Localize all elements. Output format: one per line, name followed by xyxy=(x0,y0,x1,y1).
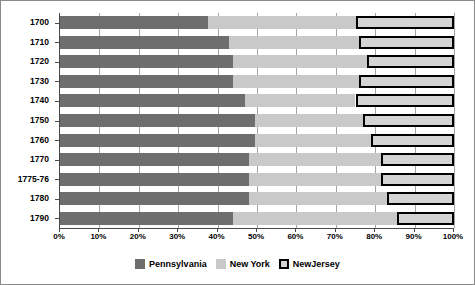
y-axis-tick-1775-76 xyxy=(55,179,59,180)
bar-segment-new-york-1730[interactable] xyxy=(233,75,359,88)
x-axis-tick-50% xyxy=(256,229,257,232)
new-york-swatch xyxy=(216,259,226,269)
legend-label: Pennsylvania xyxy=(149,259,207,269)
y-axis-label-1775-76: 1775-76 xyxy=(18,173,49,186)
bar-segment-newjersey-1730[interactable] xyxy=(359,75,454,88)
bar-row[interactable] xyxy=(60,212,454,225)
bar-segment-new-york-1700[interactable] xyxy=(208,16,356,29)
y-axis-tick-1770 xyxy=(55,160,59,161)
bar-segment-newjersey-1790[interactable] xyxy=(397,212,454,225)
bar-segment-new-york-1710[interactable] xyxy=(229,36,359,49)
y-axis-label-1710: 1710 xyxy=(30,36,49,49)
y-axis-label-1700: 1700 xyxy=(30,16,49,29)
bar-segment-new-york-1720[interactable] xyxy=(233,55,367,68)
bar-segment-newjersey-1750[interactable] xyxy=(363,114,454,127)
x-axis-tick-30% xyxy=(177,229,178,232)
pennsylvania-swatch xyxy=(135,259,145,269)
bar-segment-pennsylvania-1720[interactable] xyxy=(60,55,233,68)
y-axis-tick-1780 xyxy=(55,199,59,200)
y-axis-label-1730: 1730 xyxy=(30,75,49,88)
bar-segment-pennsylvania-1790[interactable] xyxy=(60,212,233,225)
x-axis-tick-20% xyxy=(138,229,139,232)
bar-segment-new-york-1790[interactable] xyxy=(233,212,397,225)
x-axis-tick-60% xyxy=(295,229,296,232)
x-axis-label-20%: 20% xyxy=(130,232,146,241)
bar-row[interactable] xyxy=(60,94,454,107)
bar-segment-pennsylvania-1750[interactable] xyxy=(60,114,255,127)
y-axis-tick-1700 xyxy=(55,23,59,24)
x-axis-label-30%: 30% xyxy=(169,232,185,241)
y-axis-label-1750: 1750 xyxy=(30,114,49,127)
y-axis-label-1760: 1760 xyxy=(30,134,49,147)
bar-segment-pennsylvania-1775-76[interactable] xyxy=(60,173,249,186)
bar-segment-pennsylvania-1780[interactable] xyxy=(60,192,249,205)
x-axis-tick-0% xyxy=(59,229,60,232)
bar-row[interactable] xyxy=(60,55,454,68)
bar-segment-new-york-1750[interactable] xyxy=(255,114,363,127)
legend-item-pennsylvania[interactable]: Pennsylvania xyxy=(135,259,207,269)
y-axis-tick-1790 xyxy=(55,218,59,219)
y-axis: 170017101720173017401750176017701775-761… xyxy=(1,13,55,228)
bar-segment-newjersey-1710[interactable] xyxy=(359,36,454,49)
x-axis-label-0%: 0% xyxy=(53,232,65,241)
bar-segment-pennsylvania-1710[interactable] xyxy=(60,36,229,49)
bar-segment-newjersey-1720[interactable] xyxy=(367,55,454,68)
bar-segment-new-york-1775-76[interactable] xyxy=(249,173,381,186)
bar-row[interactable] xyxy=(60,134,454,147)
bar-segment-pennsylvania-1740[interactable] xyxy=(60,94,245,107)
legend-label: New York xyxy=(230,259,270,269)
x-axis-tick-10% xyxy=(98,229,99,232)
bar-segment-new-york-1740[interactable] xyxy=(245,94,355,107)
x-axis-label-70%: 70% xyxy=(327,232,343,241)
y-axis-tick-1740 xyxy=(55,101,59,102)
x-axis-label-50%: 50% xyxy=(248,232,264,241)
bar-segment-pennsylvania-1760[interactable] xyxy=(60,134,255,147)
bar-segment-newjersey-1780[interactable] xyxy=(387,192,454,205)
bar-row[interactable] xyxy=(60,36,454,49)
legend-item-new-york[interactable]: New York xyxy=(216,259,270,269)
bar-row[interactable] xyxy=(60,75,454,88)
y-axis-tick-1710 xyxy=(55,42,59,43)
x-axis-tick-90% xyxy=(414,229,415,232)
x-axis-tick-70% xyxy=(335,229,336,232)
legend-label: NewJersey xyxy=(293,259,340,269)
bar-segment-new-york-1770[interactable] xyxy=(249,153,381,166)
bar-segment-newjersey-1740[interactable] xyxy=(356,94,455,107)
y-axis-label-1720: 1720 xyxy=(30,55,49,68)
newjersey-swatch xyxy=(279,259,289,269)
gridline-100% xyxy=(454,13,455,228)
bar-segment-newjersey-1775-76[interactable] xyxy=(381,173,454,186)
x-axis-label-80%: 80% xyxy=(366,232,382,241)
y-axis-tick-1750 xyxy=(55,121,59,122)
bar-segment-pennsylvania-1770[interactable] xyxy=(60,153,249,166)
bar-segment-pennsylvania-1730[interactable] xyxy=(60,75,233,88)
x-axis-label-10%: 10% xyxy=(90,232,106,241)
bar-segment-newjersey-1700[interactable] xyxy=(356,16,455,29)
y-axis-label-1780: 1780 xyxy=(30,192,49,205)
x-axis-tick-100% xyxy=(453,229,454,232)
y-axis-label-1770: 1770 xyxy=(30,153,49,166)
bar-row[interactable] xyxy=(60,114,454,127)
x-axis: 0%10%20%30%40%50%60%70%80%90%100% xyxy=(59,232,453,246)
x-axis-label-100%: 100% xyxy=(443,232,463,241)
legend-item-newjersey[interactable]: NewJersey xyxy=(279,259,340,269)
y-axis-label-1740: 1740 xyxy=(30,94,49,107)
x-axis-label-40%: 40% xyxy=(209,232,225,241)
plot-area xyxy=(59,13,454,229)
bar-row[interactable] xyxy=(60,153,454,166)
bar-row[interactable] xyxy=(60,192,454,205)
bar-segment-newjersey-1770[interactable] xyxy=(381,153,454,166)
x-axis-tick-40% xyxy=(217,229,218,232)
bar-segment-newjersey-1760[interactable] xyxy=(371,134,454,147)
y-axis-tick-1730 xyxy=(55,81,59,82)
bar-segment-new-york-1760[interactable] xyxy=(255,134,371,147)
bar-segment-new-york-1780[interactable] xyxy=(249,192,387,205)
x-axis-label-90%: 90% xyxy=(406,232,422,241)
y-axis-tick-1760 xyxy=(55,140,59,141)
bar-row[interactable] xyxy=(60,16,454,29)
y-axis-tick-1720 xyxy=(55,62,59,63)
bar-row[interactable] xyxy=(60,173,454,186)
bar-segment-pennsylvania-1700[interactable] xyxy=(60,16,208,29)
chart-legend: PennsylvaniaNew YorkNewJersey xyxy=(1,259,474,269)
x-axis-label-60%: 60% xyxy=(287,232,303,241)
